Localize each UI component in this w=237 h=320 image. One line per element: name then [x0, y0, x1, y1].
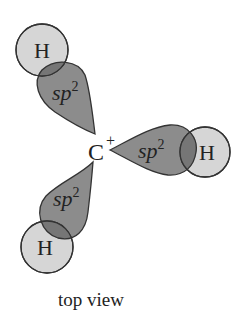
- carbon-label: C: [88, 139, 104, 165]
- positive-charge: +: [106, 132, 115, 149]
- hydrogen-label-right: H: [199, 140, 215, 165]
- carbocation-sp2-diagram: H H H sp2 sp2 sp2 C + top view: [0, 0, 237, 320]
- hydrogen-label-upper: H: [34, 38, 50, 63]
- hydrogen-label-lower: H: [37, 235, 53, 260]
- caption: top view: [58, 289, 124, 310]
